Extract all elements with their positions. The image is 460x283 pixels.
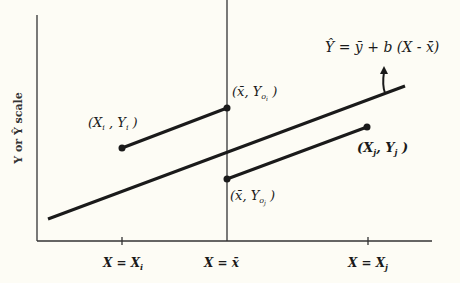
y-axis-label: Y or Ŷ scale: [11, 92, 25, 165]
point-xbar-yoi: [224, 105, 231, 112]
point-xbar-yoj: [224, 176, 231, 183]
point-xi-yi: [119, 145, 126, 152]
regression-diagram: Ŷ = ȳ + b (X - x̄) Y or Ŷ scale (Xi , Yi…: [0, 0, 460, 283]
x-tick-label-xbar: X = x̄: [203, 256, 240, 270]
x-tick-label-xj: X = Xj: [347, 256, 388, 272]
label-xbar-yoj: (x̄, Yoj ): [230, 188, 275, 207]
label-xj-yj: (Xj, Yj ): [357, 140, 408, 157]
label-xbar-yoi: (x̄, Yoi ): [232, 84, 277, 102]
label-xi-yi: (Xi , Yi ): [88, 115, 138, 132]
segment-j: [227, 127, 367, 179]
arrowhead-icon: [380, 66, 388, 74]
arrow-icon: [383, 72, 385, 93]
point-xj-yj: [364, 124, 371, 131]
segment-i: [122, 108, 227, 148]
x-tick-label-xi: X = Xi: [102, 256, 143, 272]
regression-equation: Ŷ = ȳ + b (X - x̄): [325, 38, 439, 55]
